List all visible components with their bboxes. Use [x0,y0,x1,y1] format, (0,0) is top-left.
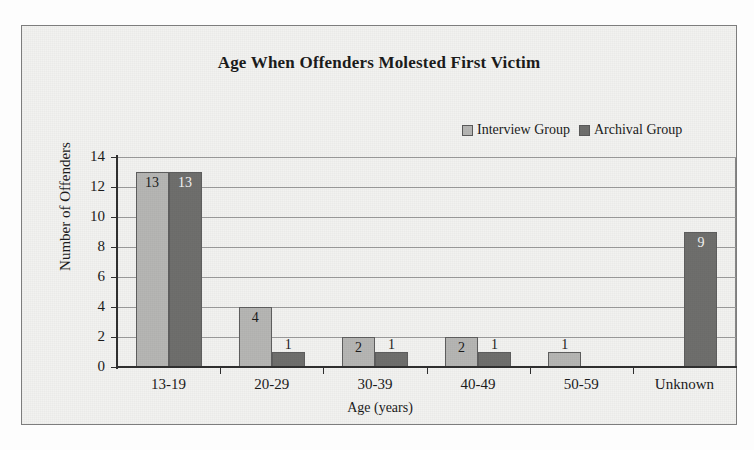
gridline [117,277,736,278]
legend-label-archival-group: Archival Group [594,122,682,138]
x-axis-tick-label: 20-29 [220,376,323,393]
gridline [117,247,736,248]
y-axis-title: Number of Offenders [57,117,74,297]
legend-label-interview-group: Interview Group [477,122,570,138]
bar-value-label: 1 [375,338,408,352]
chart-legend: Interview Group Archival Group [462,122,682,138]
plot-border-right [735,157,736,367]
square-swatch-dark-icon [579,125,590,136]
y-axis-tick [111,367,116,368]
y-axis-tick [111,217,116,218]
x-axis-tick [220,368,221,374]
chart-page: Age When Offenders Molested First Victim… [0,0,754,450]
y-axis-tick [111,157,116,158]
y-axis-tick-label: 4 [65,298,105,315]
bar-value-label: 1 [548,338,581,352]
bar-13-19-archival[interactable] [169,172,202,367]
gridline [117,157,736,158]
x-axis-tick-label: 13-19 [117,376,220,393]
legend-item-interview-group[interactable]: Interview Group [462,122,570,138]
bar-40-49-archival[interactable] [478,352,511,367]
chart-frame: Age When Offenders Molested First Victim… [21,25,737,425]
bar-value-label: 13 [169,176,202,190]
bar-value-label: 13 [136,176,169,190]
x-axis-tick [323,368,324,374]
y-axis-tick [111,277,116,278]
y-axis-line [116,155,118,369]
bar-50-59-interview[interactable] [548,352,581,367]
x-axis-tick-label: 30-39 [323,376,426,393]
bar-value-label: 1 [272,338,305,352]
gridline [117,307,736,308]
gridline [117,187,736,188]
bar-13-19-interview[interactable] [136,172,169,367]
gridline [117,337,736,338]
bar-20-29-archival[interactable] [272,352,305,367]
square-swatch-light-icon [462,125,473,136]
page-title: Age When Offenders Molested First Victim [22,53,736,73]
y-axis-tick-label: 2 [65,328,105,345]
gridline [117,217,736,218]
plot-area: 131341212119 [117,157,736,367]
y-axis-tick [111,247,116,248]
y-axis-tick [111,307,116,308]
x-axis-tick [633,368,634,374]
bar-value-label: 2 [342,341,375,355]
legend-item-archival-group[interactable]: Archival Group [579,122,682,138]
y-axis-tick [111,337,116,338]
x-axis-tick-label: 40-49 [427,376,530,393]
bar-30-39-archival[interactable] [375,352,408,367]
x-axis-tick [427,368,428,374]
y-axis-tick-label: 0 [65,358,105,375]
x-axis-title: Age (years) [22,400,738,416]
x-axis-tick-label: Unknown [633,376,736,393]
bar-value-label: 1 [478,338,511,352]
y-axis-tick [111,187,116,188]
bar-unknown-archival[interactable] [684,232,717,367]
bar-value-label: 2 [445,341,478,355]
x-axis-tick-label: 50-59 [530,376,633,393]
bar-value-label: 4 [239,311,272,325]
x-axis-tick [530,368,531,374]
bar-value-label: 9 [684,236,717,250]
